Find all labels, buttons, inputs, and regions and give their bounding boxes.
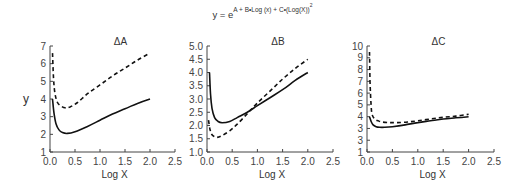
chart-b-series-solid: [210, 73, 308, 123]
chart-a-y-tick-label: 6: [40, 58, 46, 69]
chart-b-x-tick-label: 2.5: [326, 156, 340, 167]
chart-a-x-tick-label: 0.0: [43, 156, 57, 167]
chart-c-y-tick-label: 4: [357, 111, 363, 122]
chart-b-y-tick-label: 4.0: [189, 67, 203, 78]
chart-b-y-tick-label: 1.5: [189, 133, 203, 144]
chart-a-y-tick-label: 1: [40, 147, 46, 158]
chart-b-x-label: Log X: [259, 169, 285, 180]
chart-a-y-tick-label: 7: [40, 41, 46, 52]
chart-a-series-dashed: [53, 53, 151, 108]
chart-b-x-tick-label: 0.5: [225, 156, 239, 167]
chart-a-series-solid: [53, 99, 151, 133]
chart-b-x-tick-label: 1.5: [276, 156, 290, 167]
chart-c-title: ΔC: [432, 36, 446, 47]
chart-a-x-tick-label: 2.0: [143, 156, 157, 167]
chart-a-title: ΔA: [114, 36, 128, 47]
chart-a-y-tick-label: 3: [40, 111, 46, 122]
chart-c-x-tick-label: 1.5: [436, 156, 450, 167]
chart-a-y-tick-label: 5: [40, 76, 46, 87]
chart-c-y-tick-label: 10: [352, 41, 364, 52]
chart-b-y-tick-label: 3.5: [189, 80, 203, 91]
chart-b-title: ΔB: [271, 36, 285, 47]
chart-c-y-tick-label: 9: [357, 52, 363, 63]
chart-a-x-tick-label: 2.5: [168, 156, 182, 167]
chart-c-y-tick-label: 3: [357, 123, 363, 134]
chart-b-y-tick-label: 2.5: [189, 107, 203, 118]
chart-c-x-tick-label: 1.0: [411, 156, 425, 167]
chart-c-x-tick-label: 0.5: [385, 156, 399, 167]
chart-c-y-tick-label: 1: [357, 147, 363, 158]
chart-c-x-tick-label: 0.0: [360, 156, 374, 167]
chart-b-x-tick-label: 2.0: [301, 156, 315, 167]
chart-c-y-tick-label: 6: [357, 88, 363, 99]
chart-c-y-tick-label: 5: [357, 99, 363, 110]
chart-c-y-tick-label: 8: [357, 64, 363, 75]
chart-b-x-tick-label: 1.0: [250, 156, 264, 167]
chart-a-x-tick-label: 0.5: [68, 156, 82, 167]
chart-a-x-tick-label: 1.5: [118, 156, 132, 167]
charts-canvas: 0.00.51.01.52.02.51234567ΔALog Xy0.00.51…: [0, 0, 525, 196]
chart-c-x-tick-label: 2.5: [487, 156, 501, 167]
chart-b-x-tick-label: 0.0: [200, 156, 214, 167]
chart-c-y-tick-label: 7: [357, 76, 363, 87]
chart-b-y-tick-label: 4.5: [189, 54, 203, 65]
chart-a-y-tick-label: 2: [40, 129, 46, 140]
chart-a-y-label: y: [23, 92, 29, 106]
chart-c-series-dashed: [370, 52, 469, 123]
chart-b-y-tick-label: 2.0: [189, 120, 203, 131]
chart-b-y-tick-label: 3.0: [189, 94, 203, 105]
chart-b-y-tick-label: 1.0: [189, 147, 203, 158]
chart-b-y-tick-label: 5.0: [189, 41, 203, 52]
chart-c-x-tick-label: 2.0: [462, 156, 476, 167]
chart-a-x-tick-label: 1.0: [93, 156, 107, 167]
chart-c-y-tick-label: 3: [357, 135, 363, 146]
chart-c-x-label: Log X: [419, 169, 445, 180]
chart-a-y-tick-label: 4: [40, 94, 46, 105]
chart-b-series-dashed: [209, 59, 308, 137]
chart-a-x-label: Log X: [101, 169, 127, 180]
